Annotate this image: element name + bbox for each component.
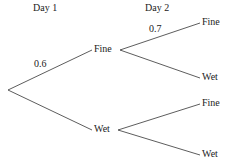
tree-branches — [0, 0, 226, 165]
probability-day2-fine-fine: 0.7 — [149, 24, 162, 34]
node-day2-fine-fine: Fine — [202, 17, 220, 27]
header-day-1: Day 1 — [33, 3, 57, 13]
node-day1-fine: Fine — [94, 44, 112, 54]
branch-root-to-fine — [8, 50, 92, 90]
branch-root-to-wet — [8, 90, 92, 130]
branch-fine-to-wet — [120, 50, 200, 78]
node-day1-wet: Wet — [94, 124, 110, 134]
branch-wet-to-wet — [118, 130, 200, 155]
node-day2-fine-wet: Wet — [202, 72, 218, 82]
header-day-2: Day 2 — [145, 3, 169, 13]
probability-day1-fine: 0.6 — [34, 59, 47, 69]
probability-tree-diagram: Day 1 Day 2 0.6 0.7 Fine Wet Fine Wet Fi… — [0, 0, 226, 165]
node-day2-wet-wet: Wet — [202, 149, 218, 159]
branch-wet-to-fine — [118, 104, 200, 130]
node-day2-wet-fine: Fine — [202, 98, 220, 108]
